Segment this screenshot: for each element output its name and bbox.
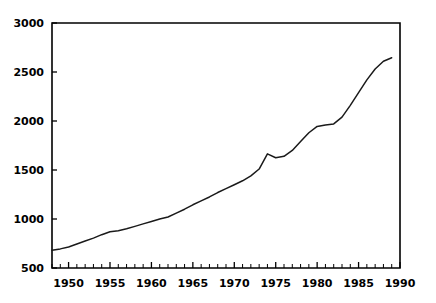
x-tick-label-1980: 1980 [302,277,333,290]
x-tick-label-1990: 1990 [385,277,416,290]
line-chart-svg: 50010001500200025003000 1950195519601965… [0,0,436,303]
x-tick-label-1950: 1950 [53,277,84,290]
x-tick-label-1975: 1975 [260,277,291,290]
y-tick-label-3000: 3000 [13,17,44,30]
chart-figure: 50010001500200025003000 1950195519601965… [0,0,436,303]
y-tick-label-1000: 1000 [13,213,44,226]
x-tick-label-1985: 1985 [343,277,374,290]
y-tick-label-2500: 2500 [13,66,44,79]
axis-frame [52,23,400,268]
x-axis-ticks [52,262,400,268]
data-series-group [52,58,392,251]
x-tick-label-1965: 1965 [178,277,209,290]
x-tick-label-1960: 1960 [136,277,167,290]
x-axis-tick-labels: 195019551960196519701975198019851990 [53,277,415,290]
x-tick-label-1970: 1970 [219,277,250,290]
y-tick-label-1500: 1500 [13,164,44,177]
y-tick-label-500: 500 [21,262,44,275]
y-axis-tick-labels: 50010001500200025003000 [13,17,44,275]
plot-axes [52,23,400,268]
y-tick-label-2000: 2000 [13,115,44,128]
data-line-series-1 [52,58,392,251]
x-tick-label-1955: 1955 [95,277,126,290]
